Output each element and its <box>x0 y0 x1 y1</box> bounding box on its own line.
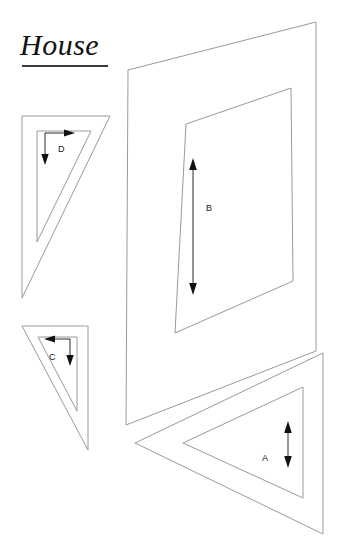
piece-a-group: A <box>135 353 323 534</box>
piece-a-arrowhead-down-icon <box>284 456 292 468</box>
piece-b-label: B <box>206 203 212 213</box>
piece-b-dimension-arrow <box>189 158 197 295</box>
piece-a-inner-outline <box>183 387 303 498</box>
piece-b-arrowhead-down-icon <box>189 283 197 295</box>
piece-a-arrowhead-up-icon <box>284 421 292 433</box>
piece-d-outer-outline <box>22 116 110 298</box>
piece-d-label: D <box>58 144 65 154</box>
piece-d-arrowhead-down-icon <box>41 154 48 165</box>
piece-c-arrowhead-down-icon <box>66 355 73 366</box>
piece-c-group: C <box>22 326 88 450</box>
piece-c-label: C <box>49 352 56 362</box>
house-diagram: B A D <box>0 0 353 546</box>
piece-d-group: D <box>22 116 110 298</box>
piece-b-arrowhead-up-icon <box>189 158 197 170</box>
piece-b-group: B <box>126 22 316 425</box>
piece-b-outer-outline <box>126 22 316 425</box>
piece-d-arrowhead-right-icon <box>64 129 75 136</box>
piece-c-arrowhead-left-icon <box>44 335 55 342</box>
piece-c-inner-outline <box>38 337 77 411</box>
piece-c-outer-outline <box>22 326 88 450</box>
piece-a-outer-outline <box>135 353 323 534</box>
piece-a-dimension-arrow <box>284 421 292 468</box>
piece-a-label: A <box>262 453 268 463</box>
